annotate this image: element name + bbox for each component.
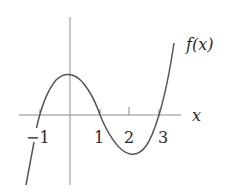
function-curve-tail [26,142,34,185]
function-label: f(x) [185,35,213,54]
x-axis-label: x [192,106,201,125]
tick-label-3: 3 [158,128,168,147]
tick-label-2: 2 [124,128,134,147]
tick-label-neg1: −1 [26,128,50,147]
tick-label-1: 1 [94,128,104,147]
function-graph: f(x) x −1 1 2 3 [0,0,236,192]
function-curve [37,43,175,154]
